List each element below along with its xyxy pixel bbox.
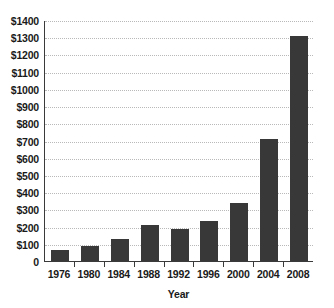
- y-tick-label: 0: [33, 256, 39, 268]
- x-tick-label: 1976: [48, 268, 71, 280]
- x-tick-label: 1988: [137, 268, 160, 280]
- x-tick-mark: [253, 262, 254, 267]
- bar: [260, 139, 278, 261]
- x-tick-mark: [134, 262, 135, 267]
- bar: [290, 36, 308, 262]
- x-tick-label: 1984: [107, 268, 130, 280]
- x-tick-label: 1980: [78, 268, 101, 280]
- bar: [111, 239, 129, 261]
- bar-chart: 0$100$200$300$400$500$600$700$800$900$10…: [0, 0, 334, 308]
- y-axis-tick-labels: 0$100$200$300$400$500$600$700$800$900$10…: [0, 0, 42, 308]
- x-tick-mark: [74, 262, 75, 267]
- x-tick-label: 2008: [287, 268, 310, 280]
- x-tick-label: 2004: [257, 268, 280, 280]
- y-tick-label: $1000: [11, 84, 39, 96]
- y-tick-label: $200: [16, 222, 39, 234]
- x-tick-mark: [193, 262, 194, 267]
- bar: [81, 246, 99, 261]
- y-tick-label: $300: [16, 204, 39, 216]
- y-tick-label: $600: [16, 153, 39, 165]
- y-tick-label: $1300: [11, 32, 39, 44]
- bar: [230, 203, 248, 261]
- x-tick-mark: [283, 262, 284, 267]
- x-tick-label: 1992: [167, 268, 190, 280]
- x-tick-mark: [164, 262, 165, 267]
- y-tick-label: $700: [16, 136, 39, 148]
- bar: [171, 229, 189, 261]
- y-tick-label: $1100: [11, 67, 39, 79]
- x-axis-tick-labels: 197619801984198819921996200020042008: [44, 268, 313, 286]
- plot-area: [44, 21, 313, 262]
- x-tick-mark: [104, 262, 105, 267]
- bar: [141, 225, 159, 261]
- bar: [51, 250, 69, 261]
- y-tick-label: $1400: [11, 15, 39, 27]
- x-tick-label: 2000: [227, 268, 250, 280]
- x-tick-label: 1996: [197, 268, 220, 280]
- x-axis-title: Year: [44, 288, 313, 300]
- y-tick-label: $100: [16, 239, 39, 251]
- x-tick-mark: [223, 262, 224, 267]
- y-tick-label: $800: [16, 118, 39, 130]
- y-tick-label: $1200: [11, 49, 39, 61]
- bar: [200, 221, 218, 261]
- y-tick-label: $400: [16, 187, 39, 199]
- bars-layer: [45, 21, 313, 261]
- y-tick-label: $500: [16, 170, 39, 182]
- y-tick-label: $900: [16, 101, 39, 113]
